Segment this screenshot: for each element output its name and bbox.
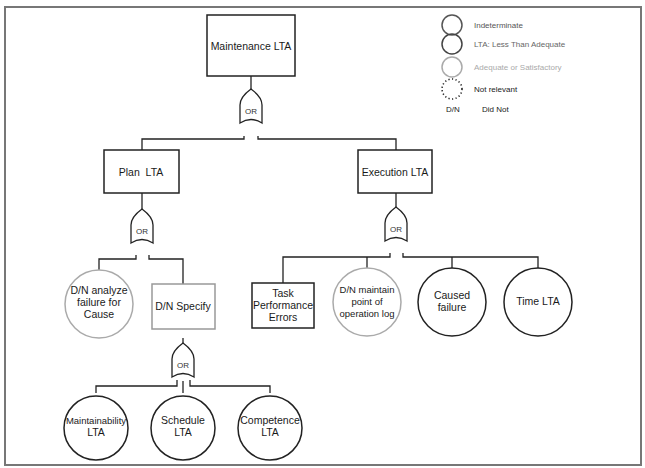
legend-abbrev-key: D/N [446, 105, 460, 114]
or-gate-1 [240, 89, 262, 123]
legend-label-not-relevant: Not relevant [474, 85, 518, 94]
or-gate-3-label: OR [390, 225, 402, 234]
or-gate-4 [172, 343, 194, 377]
legend-lta-icon [442, 34, 462, 54]
node-execution-lta-label: Execution LTA [362, 166, 429, 178]
node-plan-lta-label: Plan LTA [119, 166, 164, 178]
node-task-perf-line1: Task [272, 287, 294, 299]
dn-maintain-line2: point of [351, 296, 383, 307]
schedule-line2: LTA [174, 426, 192, 438]
node-maintenance-lta-label: Maintenance LTA [211, 40, 292, 52]
legend-label-indeterminate: Indeterminate [474, 21, 523, 30]
schedule-line1: Schedule [161, 414, 205, 426]
or-gate-2 [131, 209, 153, 243]
or-gate-3 [385, 207, 407, 241]
competence-line2: LTA [261, 426, 279, 438]
dn-analyze-line3: Cause [84, 308, 115, 320]
maintainability-line1: Maintainability [66, 415, 126, 426]
legend-label-adequate: Adequate or Satisfactory [474, 63, 562, 72]
node-task-perf-line3: Errors [269, 311, 298, 323]
legend-adequate-icon [442, 57, 462, 77]
fault-tree-diagram: Indeterminate LTA: Less Than Adequate Ad… [0, 0, 645, 468]
connectors [96, 76, 538, 393]
node-dn-specify-label: D/N Specify [155, 300, 211, 312]
node-task-perf-line2: Performance [253, 299, 313, 311]
or-gate-2-label: OR [136, 227, 148, 236]
or-gate-4-label: OR [177, 361, 189, 370]
or-gate-1-label: OR [245, 107, 257, 116]
legend-label-lta: LTA: Less Than Adequate [474, 40, 566, 49]
dn-analyze-line1: D/N analyze [70, 284, 127, 296]
legend: Indeterminate LTA: Less Than Adequate Ad… [442, 15, 566, 114]
maintainability-line2: LTA [87, 426, 105, 438]
legend-indeterminate-icon [442, 15, 462, 35]
caused-failure-line2: failure [438, 301, 467, 313]
time-lta-label: Time LTA [516, 295, 560, 307]
caused-failure-line1: Caused [434, 289, 470, 301]
dn-maintain-line1: D/N maintain [340, 284, 395, 295]
competence-line1: Competence [240, 414, 300, 426]
dn-maintain-line3: operation log [340, 308, 395, 319]
legend-abbrev-value: Did Not [482, 105, 509, 114]
dn-analyze-line2: failure for [77, 296, 121, 308]
legend-not-relevant-icon [442, 79, 462, 99]
